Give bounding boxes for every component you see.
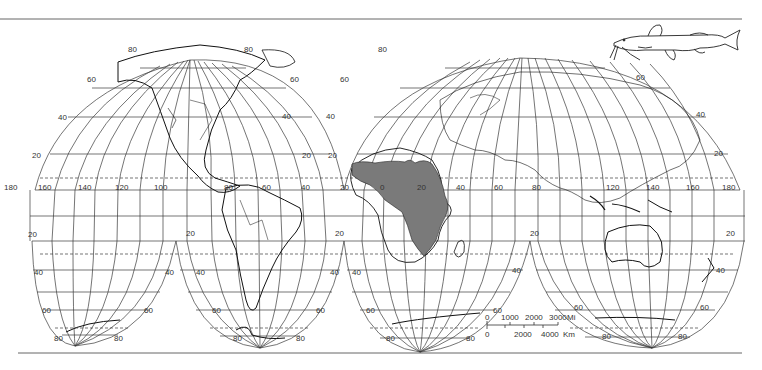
lat-label: 60 [700, 303, 709, 312]
lat-label: 40 [330, 268, 339, 277]
lat-label: 40 [196, 268, 205, 277]
scale-mi-3000: 3000 [549, 313, 567, 322]
lat-label: 60 [212, 306, 221, 315]
lat-label: 60 [636, 73, 645, 82]
lat-label: 80 [466, 334, 475, 343]
lat-label: 80 [233, 334, 242, 343]
lat-label: 40 [34, 268, 43, 277]
lon-label: 180 [4, 183, 18, 192]
lon-label: 140 [646, 183, 660, 192]
lat-label: 80 [602, 332, 611, 341]
scale-bar: 0 1000 2000 3000 Mi 0 2000 4000 Km [485, 313, 576, 339]
lat-label: 20 [186, 229, 195, 238]
lon-label: 100 [154, 183, 168, 192]
graticule [30, 58, 745, 352]
lon-label: 120 [115, 183, 129, 192]
lat-label: 60 [87, 75, 96, 84]
scale-km-0: 0 [485, 330, 490, 339]
lat-label: 20 [726, 229, 735, 238]
lon-label: 80 [532, 183, 541, 192]
lon-label: 40 [456, 183, 465, 192]
lat-label: 40 [326, 112, 335, 121]
lat-label: 60 [340, 75, 349, 84]
lat-label: 20 [714, 149, 723, 158]
lat-label: 20 [328, 151, 337, 160]
lat-label: 80 [678, 332, 687, 341]
lat-label: 40 [696, 110, 705, 119]
lon-label: 160 [38, 183, 52, 192]
fish-icon [610, 25, 740, 60]
lat-label: 60 [144, 306, 153, 315]
lat-label: 20 [335, 229, 344, 238]
lat-label: 80 [54, 334, 63, 343]
lat-label: 40 [282, 112, 291, 121]
lat-label: 80 [296, 334, 305, 343]
lat-label: 80 [114, 334, 123, 343]
lon-label: 140 [78, 183, 92, 192]
scale-km-unit: Km [563, 330, 575, 339]
world-distribution-map: 80 60 40 20 80 60 40 20 80 60 40 20 60 4… [0, 0, 762, 370]
scale-km-4000: 4000 [541, 330, 559, 339]
scale-mi-2000: 2000 [525, 313, 543, 322]
lat-label: 80 [244, 45, 253, 54]
lat-label: 60 [290, 75, 299, 84]
lon-label: 60 [262, 183, 271, 192]
lat-label: 20 [32, 151, 41, 160]
lat-label: 40 [58, 113, 67, 122]
lat-label: 20 [302, 151, 311, 160]
scale-km-2000: 2000 [514, 330, 532, 339]
lat-label: 40 [165, 268, 174, 277]
lat-label: 60 [366, 306, 375, 315]
lon-label: 180 [722, 183, 736, 192]
lat-label: 80 [128, 45, 137, 54]
lon-label: 20 [340, 183, 349, 192]
lat-label: 20 [530, 229, 539, 238]
lat-label: 80 [378, 45, 387, 54]
lat-label: 40 [352, 268, 361, 277]
lat-label: 60 [42, 306, 51, 315]
lat-label: 40 [512, 266, 521, 275]
lat-label: 60 [574, 303, 583, 312]
lon-label: 160 [686, 183, 700, 192]
lat-label: 80 [386, 334, 395, 343]
scale-mi-unit: Mi [567, 313, 576, 322]
scale-mi-0: 0 [485, 313, 490, 322]
lat-label: 20 [28, 230, 37, 239]
lat-label: 40 [716, 266, 725, 275]
lon-label: 60 [494, 183, 503, 192]
lon-label: 20 [417, 183, 426, 192]
lon-label: 40 [301, 183, 310, 192]
lon-label: 80 [224, 183, 233, 192]
shaded-range-africa [352, 160, 448, 256]
lon-label: 120 [606, 183, 620, 192]
scale-mi-1000: 1000 [501, 313, 519, 322]
lat-label: 60 [316, 306, 325, 315]
lon-label: 0 [380, 183, 385, 192]
